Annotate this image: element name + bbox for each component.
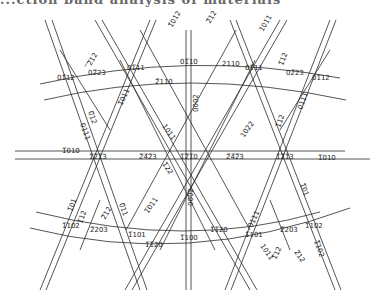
pole-label: 1̅2̅1̅3 (276, 153, 294, 161)
zone-label: 0111 (247, 209, 262, 229)
zone-label: 0111 (78, 122, 92, 141)
kikuchi-map: 1̅2̅1̅0 1̅2̅1̅3 1̅2̅1̅3 2̅4̅2̅3 2̅4̅2̅3 … (0, 0, 376, 295)
diagram-canvas: ...ction band analysis of materials (0, 0, 376, 295)
zone-label: 1̅012 (167, 10, 183, 29)
pole-label: 01̅11 (127, 64, 145, 72)
pole-label: 02̅23 (286, 69, 304, 77)
zone-label: 1011 (258, 14, 274, 33)
zone-label: 1̅1̅20 (210, 226, 228, 234)
zone-label: 1̅01 (298, 182, 310, 197)
zone-label: 1̅01 (66, 197, 78, 212)
zone-label: 0002 (187, 188, 195, 206)
zone-label: 0̅11 (117, 202, 129, 217)
zone-label: 2110 (222, 60, 240, 68)
pole-label: 01̅12 (312, 74, 330, 82)
zone-label: 1̅010 (318, 154, 336, 162)
pole-label: 1̅101 (245, 231, 263, 239)
zone-label: 1̅22 (160, 161, 174, 177)
pole-label: 1̅2̅1̅0 (180, 153, 198, 161)
pole-label: 2̅4̅2̅3 (139, 153, 157, 161)
pole-label: 2̅203 (90, 226, 108, 234)
zone-label: 1̅011 (143, 196, 160, 215)
zone-label: 1̅010 (62, 147, 80, 155)
zone-label: 0002 (192, 94, 200, 112)
zone-label: 0111 (296, 91, 310, 110)
zone-label: 1̅1̅20 (145, 241, 163, 249)
pole-label: 1̅100 (180, 234, 198, 242)
zone-label: 1̅011 (117, 87, 132, 107)
zone-label: 1022 (239, 120, 256, 139)
pole-label: 2̅203 (280, 226, 298, 234)
zone-label: 1̅12 (274, 113, 286, 128)
zone-label: 1̅12 (271, 245, 284, 261)
zone-label: 2̅12 (205, 9, 219, 25)
zone-label: 2̅12 (292, 249, 306, 265)
pole-label: 01̅10 (180, 58, 198, 66)
pole-label: 1̅101 (128, 231, 146, 239)
pole-label: 2̅4̅2̅3 (226, 153, 244, 161)
pole-label: 1̅2̅1̅3 (89, 153, 107, 161)
zone-label: ̅2̅12 (84, 51, 100, 70)
pole-label: 01̅11 (245, 64, 263, 72)
zone-label: 1̅12 (277, 51, 289, 66)
zone-label: 2̅110 (155, 78, 173, 86)
pole-label: 02̅23 (88, 69, 106, 77)
pole-label: 1̅102 (305, 222, 323, 230)
pole-label: 01̅12 (57, 74, 75, 82)
zone-label: 1̅102 (312, 239, 326, 258)
